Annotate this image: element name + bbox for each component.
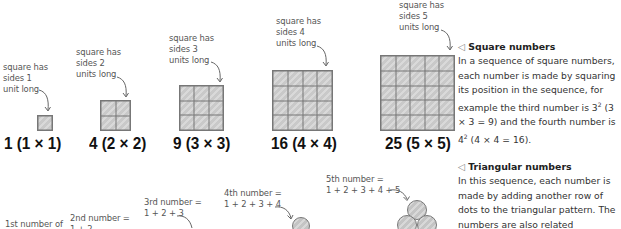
- annotation-triangular-1: 1st number of: [5, 219, 63, 229]
- square-label-1: 1 (1 × 1): [4, 134, 61, 154]
- square-label-4: 4 (2 × 2): [89, 134, 146, 154]
- caption-heading: ◁Square numbers: [458, 40, 621, 54]
- caption-heading: ◁Triangular numbers: [458, 160, 621, 174]
- triangle-left-icon: ◁: [458, 40, 465, 54]
- square-numbers-caption: ◁Square numbers In a sequence of square …: [458, 40, 621, 147]
- square-tile-1x1: [37, 115, 53, 131]
- triangular-dot: [417, 215, 437, 229]
- triangle-left-icon: ◁: [458, 160, 465, 174]
- square-label-9: 9 (3 × 3): [173, 134, 230, 154]
- triangular-dot: [397, 215, 417, 229]
- arrow-icon: [38, 88, 52, 114]
- square-tile-5x5: [380, 55, 455, 131]
- arrow-icon: [210, 60, 224, 84]
- arrow-icon: [440, 28, 454, 52]
- square-tile-3x3: [179, 85, 224, 131]
- square-label-25: 25 (5 × 5): [385, 134, 451, 154]
- triangular-dot: [292, 217, 310, 229]
- caption-body: In a sequence of square numbers, each nu…: [458, 54, 621, 147]
- annotation-square-4: square has sides 4 units long: [276, 16, 321, 49]
- annotation-square-2: square has sides 2 units long: [76, 47, 121, 80]
- annotation-square-3: square has sides 3 units long: [169, 33, 214, 66]
- square-tile-2x2: [100, 100, 131, 131]
- arrow-icon: [316, 44, 330, 68]
- arrow-icon: [116, 75, 130, 99]
- square-label-16: 16 (4 × 4): [271, 134, 337, 154]
- annotation-square-5: square has sides 5 units long: [399, 0, 444, 33]
- caption-body: In this sequence, each number is made by…: [458, 174, 621, 229]
- annotation-triangular-2: 2nd number = 1 + 2: [70, 213, 130, 229]
- triangular-numbers-caption: ◁Triangular numbers In this sequence, ea…: [458, 160, 621, 229]
- arrow-icon: [176, 214, 196, 229]
- square-tile-4x4: [272, 70, 333, 131]
